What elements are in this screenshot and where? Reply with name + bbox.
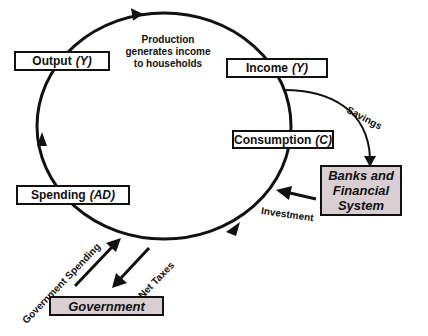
banks-line2: Financial	[333, 183, 389, 198]
production-caption: Production generates income to household…	[124, 34, 212, 70]
consumption-label: Consumption	[234, 133, 311, 147]
banks-financial-system-box: Banks and Financial System	[320, 165, 402, 216]
production-caption-line2: generates income	[124, 46, 212, 58]
income-symbol: (Y)	[292, 61, 308, 75]
spending-label: Spending	[31, 188, 86, 202]
banks-line1: Banks and	[328, 168, 394, 183]
investment-arrow	[290, 193, 316, 199]
production-caption-line1: Production	[124, 34, 212, 46]
net-taxes-arrow	[121, 248, 149, 278]
income-label: Income	[246, 61, 288, 75]
output-box: Output (Y)	[14, 51, 110, 71]
government-box: Government	[49, 296, 164, 316]
production-caption-line3: to households	[124, 58, 212, 70]
investment-arrowhead-icon	[276, 186, 292, 200]
consumption-box: Consumption (C)	[232, 130, 334, 149]
government-label: Government	[68, 299, 145, 314]
loop-arrow-top-icon	[129, 8, 144, 22]
income-box: Income (Y)	[226, 58, 328, 78]
output-symbol: (Y)	[76, 54, 92, 68]
output-label: Output	[32, 54, 71, 68]
spending-box: Spending (AD)	[16, 185, 130, 205]
spending-symbol: (AD)	[90, 188, 115, 202]
banks-line3: System	[338, 198, 384, 213]
consumption-symbol: (C)	[315, 133, 332, 147]
